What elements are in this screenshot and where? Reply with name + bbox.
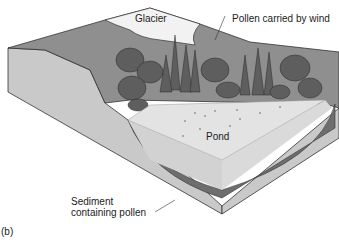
sediment-leader-line: [155, 200, 175, 212]
glacier-label: Glacier: [135, 13, 167, 24]
panel-label: (b): [1, 226, 13, 237]
pond-diagram: [0, 0, 339, 240]
pollen-wind-label: Pollen carried by wind: [232, 13, 330, 24]
sediment-label-line1: Sediment: [71, 196, 113, 207]
pond-label: Pond: [206, 131, 229, 142]
sediment-label-line2: containing pollen: [71, 207, 146, 218]
